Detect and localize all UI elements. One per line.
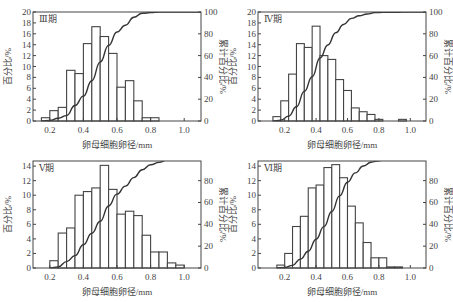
y-tick-label: 18 xyxy=(247,18,257,28)
right-y-tick-label: 60 xyxy=(429,197,439,207)
x-tick-label: 0.2 xyxy=(44,125,55,135)
right-y-tick-label: 60 xyxy=(429,51,439,61)
y-tick-label: 12 xyxy=(247,176,256,186)
right-y-tick-label: 40 xyxy=(429,219,439,229)
y-tick-label: 6 xyxy=(252,219,257,229)
y-tick-label: 0 xyxy=(27,263,32,273)
x-tick-label: 0.8 xyxy=(145,272,157,282)
histogram-bar xyxy=(75,195,83,268)
y-tick-label: 0 xyxy=(252,263,257,273)
right-y-tick-label: 80 xyxy=(204,29,214,39)
y-tick-label: 2 xyxy=(252,248,257,258)
y-tick-label: 6 xyxy=(27,219,32,229)
y-tick-label: 12 xyxy=(22,51,31,61)
right-y-axis-label: 累计百分比/% xyxy=(443,39,453,95)
histogram-bar xyxy=(67,70,75,121)
y-tick-label: 14 xyxy=(247,161,257,171)
y-tick-label: 4 xyxy=(27,234,32,244)
y-tick-label: 20 xyxy=(247,7,257,17)
histogram-bar xyxy=(167,263,175,268)
y-tick-label: 10 xyxy=(22,190,32,200)
histogram-bar xyxy=(355,223,363,268)
histogram-bar xyxy=(312,26,320,121)
x-tick-label: 0.8 xyxy=(373,272,385,282)
panel-label: Ⅲ期 xyxy=(39,14,57,24)
right-y-tick-label: 0 xyxy=(204,263,209,273)
histogram-bar xyxy=(371,258,379,268)
right-y-tick-label: 60 xyxy=(204,51,214,61)
chart-panel-stage-6: 024681012140204060800.20.40.60.81.0Ⅵ期卵母细… xyxy=(227,159,453,297)
x-tick-label: 0.6 xyxy=(342,272,354,282)
right-y-tick-label: 80 xyxy=(204,176,214,186)
y-tick-label: 10 xyxy=(22,62,32,72)
histogram-bar xyxy=(344,90,352,121)
y-tick-label: 12 xyxy=(22,176,31,186)
y-axis-label: 百分比/% xyxy=(2,195,13,233)
x-tick-label: 0.8 xyxy=(145,125,157,135)
x-tick-label: 1.0 xyxy=(179,272,191,282)
right-y-tick-label: 40 xyxy=(429,72,439,82)
histogram-bar xyxy=(336,80,344,121)
y-tick-label: 0 xyxy=(252,116,257,126)
histogram-bar xyxy=(83,192,91,268)
y-tick-label: 10 xyxy=(247,190,257,200)
x-tick-label: 1.0 xyxy=(405,272,417,282)
right-y-tick-label: 100 xyxy=(204,7,218,17)
histogram-bar xyxy=(379,258,387,268)
y-axis-label: 百分比/% xyxy=(227,47,238,85)
histogram-bar xyxy=(58,107,66,121)
histogram-bar xyxy=(359,112,367,121)
right-y-tick-label: 20 xyxy=(429,241,439,251)
right-y-tick-label: 0 xyxy=(429,263,434,273)
histogram-bar xyxy=(351,108,359,121)
x-tick-label: 0.4 xyxy=(310,125,322,135)
x-tick-label: 0.2 xyxy=(279,272,290,282)
x-tick-label: 0.2 xyxy=(279,125,290,135)
histogram-bar xyxy=(100,165,108,268)
y-tick-label: 12 xyxy=(247,51,256,61)
right-y-tick-label: 0 xyxy=(429,116,434,126)
right-y-tick-label: 100 xyxy=(429,7,443,17)
y-tick-label: 4 xyxy=(252,94,257,104)
x-tick-label: 0.8 xyxy=(373,125,385,135)
histogram-bar xyxy=(109,53,117,121)
y-tick-label: 8 xyxy=(252,72,257,82)
panel-label: Ⅳ期 xyxy=(264,14,282,24)
histogram-bar xyxy=(328,59,336,121)
y-tick-label: 6 xyxy=(252,83,257,93)
chart-panel-stage-4: 024681012141618200204060801000.20.40.60.… xyxy=(227,7,453,150)
right-y-tick-label: 0 xyxy=(204,116,209,126)
histogram-bar xyxy=(159,252,167,268)
y-tick-label: 14 xyxy=(247,40,257,50)
y-tick-label: 0 xyxy=(27,116,32,126)
histogram-bar xyxy=(308,188,316,268)
x-tick-label: 0.6 xyxy=(111,125,123,135)
right-y-tick-label: 20 xyxy=(429,94,439,104)
y-tick-label: 16 xyxy=(247,29,257,39)
right-y-tick-label: 60 xyxy=(204,197,214,207)
x-axis-label: 卵母细胞卵径/mm xyxy=(307,139,378,150)
histogram-bar xyxy=(151,252,159,268)
histogram-bar xyxy=(367,114,375,121)
x-tick-label: 0.6 xyxy=(342,125,354,135)
x-tick-label: 0.4 xyxy=(78,125,90,135)
y-tick-label: 20 xyxy=(22,7,32,17)
y-tick-label: 8 xyxy=(27,205,32,215)
chart-panel-stage-3: 024681012141618200204060801000.20.40.60.… xyxy=(2,7,229,150)
y-axis-label: 百分比/% xyxy=(2,47,13,85)
x-tick-label: 0.4 xyxy=(78,272,90,282)
y-tick-label: 2 xyxy=(27,105,32,115)
histogram-bar xyxy=(117,214,125,268)
panel-label: Ⅵ期 xyxy=(263,163,282,173)
y-tick-label: 10 xyxy=(247,62,257,72)
histogram-bar xyxy=(347,206,355,268)
x-tick-label: 1.0 xyxy=(179,125,191,135)
y-tick-label: 8 xyxy=(252,205,257,215)
histogram-grid: 024681012141618200204060801000.20.40.60.… xyxy=(0,0,453,302)
x-tick-label: 0.4 xyxy=(310,272,322,282)
x-tick-label: 1.0 xyxy=(405,125,417,135)
y-tick-label: 2 xyxy=(27,248,32,258)
y-tick-label: 6 xyxy=(27,83,32,93)
histogram-bar xyxy=(332,165,340,268)
panel-label: Ⅴ期 xyxy=(38,163,55,173)
